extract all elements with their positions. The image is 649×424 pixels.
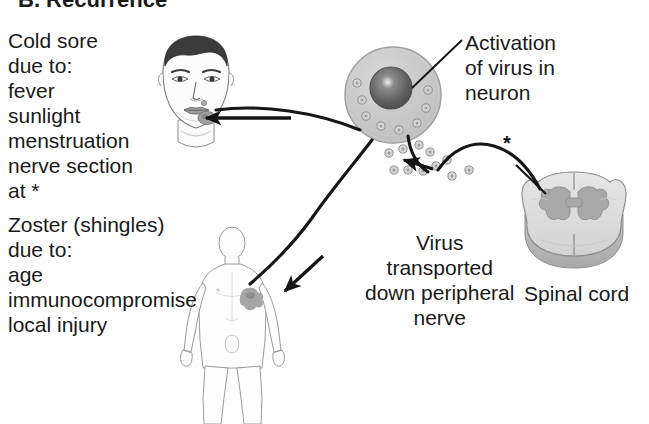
figure-canvas: B. Recurrence	[0, 0, 649, 424]
activation-label: Activation of virus in neuron	[465, 30, 556, 105]
arrow-to-body	[285, 256, 323, 291]
virus-transport-label: Virus transported down peripheral nerve	[365, 230, 514, 330]
virus-particles-in-nerve	[385, 141, 473, 180]
cold-sore-label: Cold sore due to: fever sunlight menstru…	[8, 28, 133, 203]
nerve-section-asterisk: *	[503, 132, 511, 155]
nerve-to-body	[250, 140, 372, 284]
spinal-cord-label: Spinal cord	[524, 281, 629, 306]
nerve-from-spinal-cord	[438, 144, 540, 189]
face-with-cold-sore	[159, 36, 234, 147]
zoster-label: Zoster (shingles) due to: age immunocomp…	[8, 212, 197, 337]
